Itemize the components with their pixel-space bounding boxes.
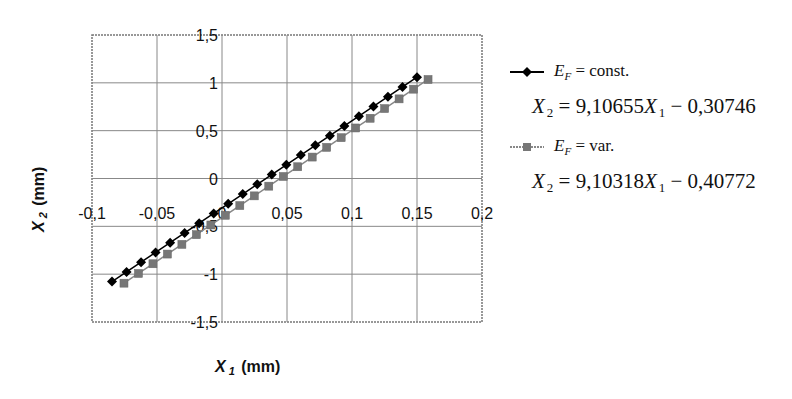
svg-text:-0,1: -0,1 xyxy=(78,205,106,222)
y-axis-title: X2 (mm) xyxy=(30,167,49,233)
svg-text:0,15: 0,15 xyxy=(401,205,432,222)
svg-text:1: 1 xyxy=(209,75,218,92)
x-axis-title: X1 (mm) xyxy=(214,358,280,377)
svg-text:1,5: 1,5 xyxy=(196,27,218,44)
square-marker-icon xyxy=(510,141,544,153)
svg-text:0,1: 0,1 xyxy=(341,205,363,222)
svg-text:-1,5: -1,5 xyxy=(190,314,218,331)
svg-text:0,05: 0,05 xyxy=(271,205,302,222)
equation-const: X2 = 9,10655X1 − 0,30746 xyxy=(532,94,790,121)
legend: EF = const. X2 = 9,10655X1 − 0,30746 EF … xyxy=(510,60,790,210)
equation-var: X2 = 9,10318X1 − 0,40772 xyxy=(532,169,790,196)
legend-item-const: EF = const. xyxy=(510,60,790,84)
diamond-marker-icon xyxy=(510,66,544,78)
svg-text:-0,05: -0,05 xyxy=(139,205,176,222)
legend-item-var: EF = var. xyxy=(510,135,790,159)
chart-canvas: -0,1-0,0500,050,10,150,21,510,50-0,5-1-1… xyxy=(0,0,500,399)
svg-text:0: 0 xyxy=(209,171,218,188)
svg-text:0,5: 0,5 xyxy=(196,123,218,140)
svg-text:-1: -1 xyxy=(204,266,218,283)
svg-text:0,2: 0,2 xyxy=(471,205,493,222)
